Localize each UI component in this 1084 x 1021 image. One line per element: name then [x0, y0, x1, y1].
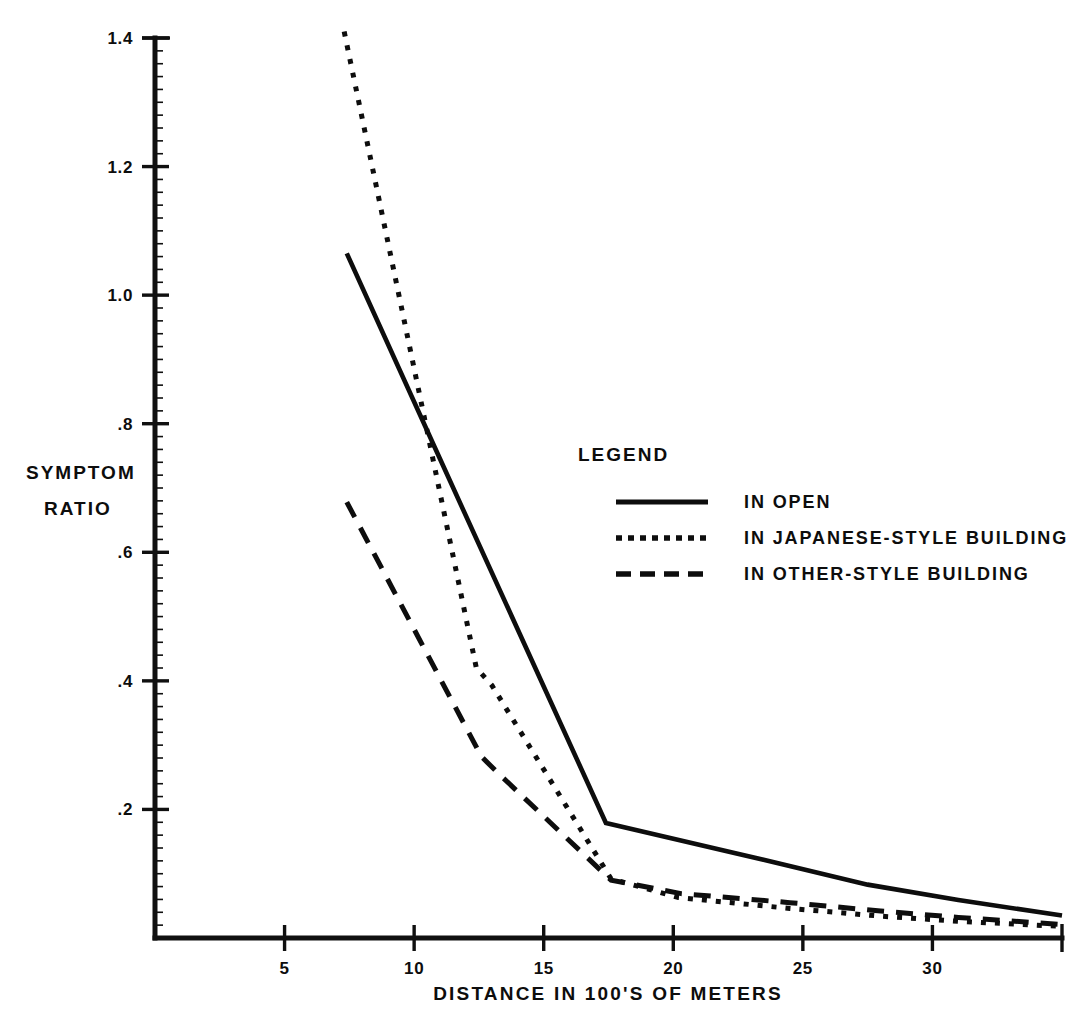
legend-label-in-japanese-style-building: IN JAPANESE-STYLE BUILDING [744, 528, 1068, 549]
legend-label-in-other-style-building: IN OTHER-STYLE BUILDING [744, 564, 1030, 585]
x-axis-title: DISTANCE IN 100'S OF METERS [433, 983, 783, 1004]
legend-label-in-open: IN OPEN [744, 492, 831, 513]
x-tick-label: 20 [663, 959, 683, 978]
legend-item-in-open: IN OPEN [578, 484, 1008, 520]
x-tick-label: 30 [922, 959, 942, 978]
y-axis-title-line-1: SYMPTOM [26, 462, 136, 483]
y-tick-label: .8 [118, 415, 133, 434]
legend-swatch-solid-line [616, 495, 708, 509]
y-tick-label: .6 [118, 543, 133, 562]
y-tick-label: 1.2 [108, 158, 133, 177]
y-tick-label: .2 [118, 800, 133, 819]
legend: LEGEND IN OPEN IN JAPANESE-STYLE BUILDIN… [578, 444, 1008, 592]
x-tick-group: 51015202530 [280, 925, 943, 978]
y-axis-title: SYMPTOM RATIO [26, 455, 176, 527]
legend-item-in-other-style-building: IN OTHER-STYLE BUILDING [578, 556, 1008, 592]
x-tick-label: 5 [280, 959, 290, 978]
x-tick-label: 25 [793, 959, 813, 978]
x-tick-label: 10 [404, 959, 424, 978]
y-tick-label: 1.4 [108, 29, 133, 48]
legend-swatch-dotted-line [616, 531, 708, 545]
x-tick-label: 15 [534, 959, 554, 978]
y-axis-title-line-2: RATIO [26, 491, 176, 527]
legend-item-in-japanese-style-building: IN JAPANESE-STYLE BUILDING [578, 520, 1008, 556]
chart-figure: .2.4.6.81.01.21.4 51015202530 DISTANCE I… [0, 0, 1084, 1021]
legend-title: LEGEND [578, 444, 1008, 466]
y-tick-label: 1.0 [108, 286, 133, 305]
y-tick-label: .4 [118, 672, 133, 691]
legend-swatch-dashed-line [616, 567, 708, 581]
